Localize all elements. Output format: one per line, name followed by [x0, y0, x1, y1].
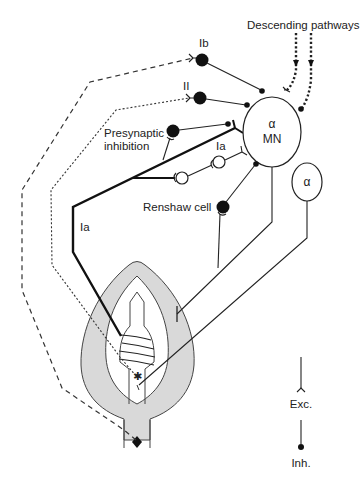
ia-interneuron-soma-2 [213, 156, 225, 168]
legend-inhibitory-label: Inh. [291, 457, 310, 469]
descending-pathways [283, 33, 314, 112]
ii-label: II [183, 80, 189, 92]
inhibitory-synapse-icon [298, 444, 304, 450]
ii-interneuron [194, 92, 250, 108]
mn-alpha-label: α [269, 117, 276, 131]
renshaw-cell [217, 161, 259, 268]
descending-pathways-label: Descending pathways [247, 19, 360, 31]
ia-interneuron-soma-1 [176, 172, 188, 184]
spinal-reflex-diagram: ✱ [0, 0, 360, 482]
ia-interneuron-label: Ia [216, 140, 226, 152]
alpha-small-label: α [304, 175, 311, 189]
legend: Exc. Inh. [290, 357, 312, 469]
mn-label: MN [263, 132, 282, 146]
presynaptic-label-2: inhibition [104, 140, 149, 152]
renshaw-label: Renshaw cell [143, 201, 211, 213]
ib-interneuron [196, 54, 265, 94]
secondary-ending-icon: ✱ [133, 370, 142, 382]
muscle-spindle: ✱ [81, 262, 194, 449]
presynaptic-label-1: Presynaptic [104, 127, 164, 139]
ia-afferent-label: Ia [80, 221, 90, 233]
ib-label: Ib [199, 37, 209, 49]
legend-excitatory-label: Exc. [290, 398, 312, 410]
